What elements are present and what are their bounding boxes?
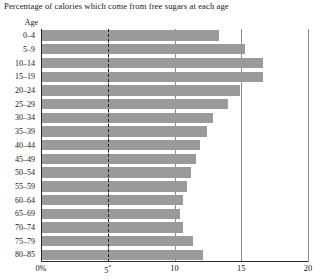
x-axis-label: 10 xyxy=(170,264,178,273)
y-axis-label: 55–59 xyxy=(15,182,35,191)
y-axis-line xyxy=(41,29,42,262)
bar-15-19 xyxy=(41,72,263,82)
bar-row xyxy=(41,70,308,84)
bar-series xyxy=(41,29,308,262)
bar-45-49 xyxy=(41,154,196,164)
bar-row xyxy=(41,166,308,180)
y-axis-label: 20–24 xyxy=(15,86,35,95)
bar-row xyxy=(41,152,308,166)
bar-5-9 xyxy=(41,44,245,54)
bar-row xyxy=(41,98,308,112)
bar-65-69 xyxy=(41,209,180,219)
y-axis-header: Age xyxy=(0,18,41,27)
x-axis-labels: 0%5*101520 xyxy=(0,264,320,278)
y-axis-label: 35–39 xyxy=(15,127,35,136)
bar-row xyxy=(41,180,308,194)
y-axis-label: 60–64 xyxy=(15,196,35,205)
bar-row xyxy=(41,139,308,153)
bar-10-14 xyxy=(41,58,263,68)
y-axis-label: 75–79 xyxy=(15,237,35,246)
x-axis-label: 15 xyxy=(237,264,245,273)
bar-60-64 xyxy=(41,195,183,205)
bar-50-54 xyxy=(41,167,191,177)
bar-40-44 xyxy=(41,140,200,150)
bar-25-29 xyxy=(41,99,228,109)
y-axis-label: 30–34 xyxy=(15,113,35,122)
y-axis-label: 40–44 xyxy=(15,141,35,150)
y-axis-label: 25–29 xyxy=(15,100,35,109)
bar-0-4 xyxy=(41,30,219,40)
chart-title: Percentage of calories which come from f… xyxy=(4,1,229,11)
bar-row xyxy=(41,29,308,43)
reference-line-5-percent xyxy=(108,29,109,262)
bar-row xyxy=(41,56,308,70)
x-axis-line xyxy=(41,261,308,262)
bar-row xyxy=(41,84,308,98)
bar-55-59 xyxy=(41,181,187,191)
y-axis-label: 80–85 xyxy=(15,250,35,259)
bar-row xyxy=(41,43,308,57)
x-axis-label: 0% xyxy=(35,264,46,273)
x-axis-label: 20 xyxy=(304,264,312,273)
y-axis-label: 65–69 xyxy=(15,209,35,218)
bar-row xyxy=(41,207,308,221)
bar-30-34 xyxy=(41,113,213,123)
y-axis-label: 10–14 xyxy=(15,59,35,68)
y-axis-label: 15–19 xyxy=(15,72,35,81)
bar-row xyxy=(41,125,308,139)
bar-75-79 xyxy=(41,236,193,246)
bar-20-24 xyxy=(41,85,240,95)
y-axis-labels: 0–45–910–1415–1920–2425–2930–3435–3940–4… xyxy=(0,29,38,262)
bar-70-74 xyxy=(41,222,183,232)
y-axis-label: 0–4 xyxy=(23,31,35,40)
bar-35-39 xyxy=(41,126,207,136)
y-axis-label: 70–74 xyxy=(15,223,35,232)
bar-row xyxy=(41,193,308,207)
y-axis-label: 45–49 xyxy=(15,155,35,164)
bar-80-85 xyxy=(41,250,203,260)
y-axis-label: 5–9 xyxy=(23,45,35,54)
x-axis-label: 5* xyxy=(104,264,111,275)
gridline-20 xyxy=(308,29,309,262)
chart-container: Percentage of calories which come from f… xyxy=(0,0,320,280)
bar-row xyxy=(41,235,308,249)
bar-row xyxy=(41,221,308,235)
bar-row xyxy=(41,111,308,125)
plot-area xyxy=(41,29,308,262)
y-axis-label: 50–54 xyxy=(15,168,35,177)
